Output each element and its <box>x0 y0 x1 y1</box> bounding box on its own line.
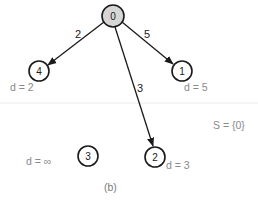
figure-caption: (b) <box>104 181 117 193</box>
edge-0-2 <box>115 27 153 146</box>
node-2-label: 2 <box>152 152 158 163</box>
distance-node-3: d = ∞ <box>26 155 51 167</box>
node-3: 3 <box>78 146 98 166</box>
distance-node-2: d = 3 <box>166 159 190 171</box>
edge-weight-0-2: 3 <box>137 82 143 94</box>
node-0: 0 <box>102 5 124 27</box>
node-2: 2 <box>145 147 165 167</box>
node-4-label: 4 <box>36 66 42 77</box>
edge-weight-0-1: 5 <box>144 28 150 40</box>
visited-set-label: S = {0} <box>213 119 245 131</box>
node-3-label: 3 <box>85 151 91 162</box>
edge-weight-0-4: 2 <box>75 28 81 40</box>
node-0-label: 0 <box>110 11 116 22</box>
node-1: 1 <box>172 61 192 81</box>
dijkstra-graph-diagram: 2 5 3 0 1 2 3 4 d = 2 d = 5 d = 3 d = ∞ … <box>0 0 258 200</box>
distance-node-1: d = 5 <box>184 81 208 93</box>
node-1-label: 1 <box>179 66 185 77</box>
distance-node-4: d = 2 <box>10 81 34 93</box>
node-4: 4 <box>29 61 49 81</box>
